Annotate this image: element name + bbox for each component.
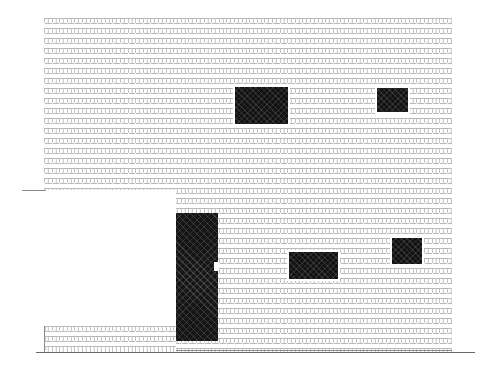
left-setback-recess bbox=[44, 190, 176, 326]
window-upper-right bbox=[377, 88, 408, 112]
door-main bbox=[176, 213, 218, 341]
low-wall-return-line bbox=[44, 326, 45, 352]
low-forecourt-wall bbox=[44, 326, 176, 350]
door-jamb-notch bbox=[214, 262, 219, 271]
elevation-drawing bbox=[0, 0, 496, 384]
main-wall-base-line bbox=[176, 350, 452, 351]
window-lower-right bbox=[392, 238, 422, 264]
ground-line bbox=[36, 352, 475, 353]
window-upper-center bbox=[235, 87, 288, 124]
setback-soffit-line bbox=[22, 190, 46, 191]
window-lower-center bbox=[289, 252, 338, 279]
